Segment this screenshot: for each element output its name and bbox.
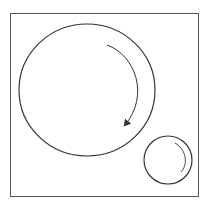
small-circle: [144, 136, 192, 184]
diagram-canvas: [0, 0, 208, 205]
large-circle: [19, 24, 155, 156]
clockwise-arrow-icon: [107, 45, 138, 125]
frame: [11, 14, 199, 197]
small-clockwise-arc-icon: [175, 143, 185, 172]
